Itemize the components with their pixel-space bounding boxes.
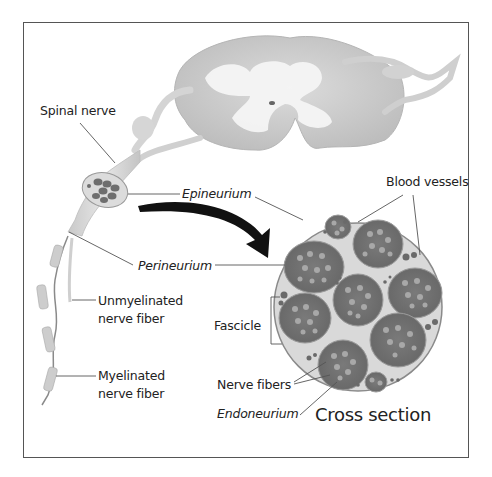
curved-arrow <box>138 202 270 258</box>
label-spinal-nerve: Spinal nerve <box>40 103 116 118</box>
label-unmyelinated-nerve-fiber: Unmyelinated nerve fiber <box>98 293 183 326</box>
label-nerve-fibers: Nerve fibers <box>217 377 291 392</box>
label-fascicle: Fascicle <box>214 318 261 333</box>
label-unmyelinated-line1: Unmyelinated <box>98 293 183 308</box>
label-myelinated-line1: Myelinated <box>98 368 165 383</box>
cross-section <box>274 215 442 392</box>
spinal-nerve <box>36 150 140 405</box>
label-endoneurium: Endoneurium <box>217 406 298 421</box>
spinal-cord <box>132 36 455 160</box>
label-epineurium: Epineurium <box>182 186 252 201</box>
label-myelinated-line2: nerve fiber <box>98 386 165 401</box>
label-blood-vessels: Blood vessels <box>386 174 468 189</box>
label-perineurium: Perineurium <box>138 258 212 273</box>
label-unmyelinated-line2: nerve fiber <box>98 311 183 326</box>
label-myelinated-nerve-fiber: Myelinated nerve fiber <box>98 368 165 401</box>
cross-section-title: Cross section <box>315 407 431 422</box>
